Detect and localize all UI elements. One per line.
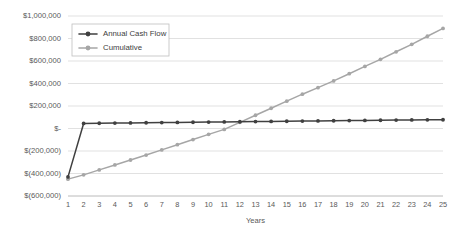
- data-point: [222, 120, 226, 124]
- data-point: [363, 65, 367, 69]
- x-axis-tick-label: 23: [408, 200, 416, 209]
- data-point: [269, 106, 273, 110]
- data-point: [254, 120, 258, 124]
- data-point: [441, 26, 445, 30]
- data-point: [97, 168, 101, 172]
- chart-legend: Annual Cash FlowCumulative: [72, 24, 169, 56]
- x-axis-tick-label: 20: [361, 200, 369, 209]
- x-axis-tick-label: 13: [251, 200, 259, 209]
- x-axis-tick-label: 2: [82, 200, 86, 209]
- data-point: [269, 120, 273, 124]
- y-axis-tick-label: $400,000: [29, 79, 61, 88]
- data-point: [410, 118, 414, 122]
- data-point: [394, 50, 398, 54]
- y-axis-tick-label: $(600,000): [24, 191, 61, 200]
- y-axis-tick-label: $(200,000): [24, 146, 61, 155]
- data-point: [144, 153, 148, 157]
- legend-label: Cumulative: [103, 43, 142, 52]
- data-point: [238, 120, 242, 124]
- x-axis-tick-label: 5: [128, 200, 132, 209]
- data-point: [300, 92, 304, 96]
- data-point: [144, 121, 148, 125]
- x-axis-tick-label: 4: [113, 200, 117, 209]
- data-point: [191, 138, 195, 142]
- data-point: [191, 120, 195, 124]
- data-point: [332, 119, 336, 123]
- x-axis-tick-label: 10: [205, 200, 213, 209]
- data-point: [82, 173, 86, 177]
- x-axis-tick-label: 14: [267, 200, 275, 209]
- data-point: [175, 143, 179, 147]
- data-point: [363, 119, 367, 123]
- y-axis-tick-label: $1,000,000: [23, 11, 61, 20]
- data-point: [441, 118, 445, 122]
- cash-flow-line-chart: $1,000,000$800,000$600,000$400,000$200,0…: [0, 0, 451, 237]
- data-point: [66, 175, 70, 179]
- data-point: [332, 79, 336, 83]
- y-axis-tick-label: $200,000: [29, 101, 61, 110]
- x-axis-tick-label: 11: [220, 200, 228, 209]
- legend-label: Annual Cash Flow: [103, 29, 167, 38]
- data-point: [160, 121, 164, 125]
- x-axis-tick-label: 18: [330, 200, 338, 209]
- data-point: [347, 72, 351, 76]
- data-point: [97, 121, 101, 125]
- y-axis-tick-label: $600,000: [29, 56, 61, 65]
- y-axis-tick-label: $-: [54, 124, 61, 133]
- x-axis-tick-label: 9: [191, 200, 195, 209]
- data-point: [300, 119, 304, 123]
- data-point: [113, 121, 117, 125]
- x-axis-tick-label: 25: [439, 200, 447, 209]
- data-point: [254, 113, 258, 117]
- legend-marker-dot: [86, 46, 91, 51]
- x-axis-tick-label: 1: [66, 200, 70, 209]
- y-axis-tick-label: $800,000: [29, 34, 61, 43]
- x-axis-tick-label: 6: [144, 200, 148, 209]
- data-point: [129, 121, 133, 125]
- data-point: [379, 57, 383, 61]
- chart-canvas: $1,000,000$800,000$600,000$400,000$200,0…: [0, 0, 451, 237]
- data-point: [129, 158, 133, 162]
- x-axis-tick-label: 17: [314, 200, 322, 209]
- data-point: [425, 118, 429, 122]
- x-axis-tick-label: 12: [236, 200, 244, 209]
- data-point: [425, 34, 429, 38]
- y-axis-tick-label: $(400,000): [24, 169, 61, 178]
- data-point: [347, 119, 351, 123]
- data-point: [113, 163, 117, 167]
- x-axis-title: Years: [246, 216, 265, 225]
- data-point: [82, 122, 86, 126]
- data-point: [316, 119, 320, 123]
- data-point: [285, 119, 289, 123]
- data-point: [285, 99, 289, 103]
- x-axis-tick-label: 19: [345, 200, 353, 209]
- x-axis-tick-label: 24: [423, 200, 431, 209]
- x-axis-tick-label: 22: [392, 200, 400, 209]
- data-point: [379, 118, 383, 122]
- x-axis-tick-label: 8: [175, 200, 179, 209]
- data-point: [410, 42, 414, 46]
- legend-marker-dot: [86, 32, 91, 37]
- data-point: [175, 121, 179, 125]
- x-axis-tick-label: 15: [283, 200, 291, 209]
- data-point: [222, 127, 226, 131]
- series-annual-cash-flow: [66, 118, 445, 179]
- data-point: [394, 118, 398, 122]
- x-axis-tick-label: 7: [160, 200, 164, 209]
- data-point: [160, 148, 164, 152]
- x-axis-tick-label: 21: [376, 200, 384, 209]
- x-axis-tick-label: 3: [97, 200, 101, 209]
- data-point: [316, 86, 320, 90]
- data-point: [207, 120, 211, 124]
- x-axis-tick-label: 16: [298, 200, 306, 209]
- data-point: [207, 132, 211, 136]
